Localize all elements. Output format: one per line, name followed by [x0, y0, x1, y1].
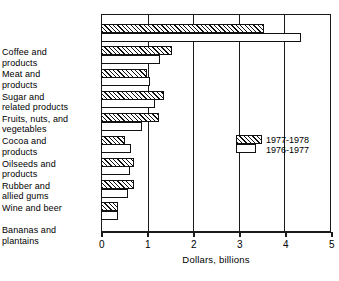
bar — [101, 136, 125, 145]
bar — [101, 122, 142, 131]
category-label: Bananas and plantains — [2, 225, 95, 246]
x-axis-tick — [285, 232, 287, 237]
x-axis-tick — [239, 232, 241, 237]
category-label: Oilseeds and products — [2, 159, 95, 180]
category-label: Wine and beer — [2, 203, 95, 214]
bar — [101, 55, 160, 64]
bar — [101, 77, 150, 86]
bar — [101, 202, 118, 211]
x-axis-tick-label: 0 — [99, 239, 105, 250]
x-axis-tick-label: 5 — [329, 239, 335, 250]
x-axis-tick-label: 1 — [145, 239, 151, 250]
category-label: Meat and products — [2, 69, 95, 90]
category-label: Coffee and products — [2, 47, 95, 68]
bar — [101, 189, 128, 198]
legend-label-1977-1978: 1977-1978 — [266, 135, 309, 145]
bar — [101, 113, 159, 122]
bar — [101, 99, 155, 108]
bar — [101, 180, 134, 189]
x-axis-tick-label: 3 — [237, 239, 243, 250]
legend-swatch-1977-1978 — [236, 135, 262, 144]
x-axis-tick-label: 4 — [283, 239, 289, 250]
bar — [101, 166, 130, 175]
chart-legend: 1977-1978 1976-1977 — [236, 135, 336, 161]
bar — [101, 46, 172, 55]
bar-chart: Coffee and productsMeat and productsSuga… — [0, 0, 339, 281]
bar — [101, 144, 131, 153]
bar — [101, 91, 164, 100]
legend-swatch-1976-1977 — [236, 144, 256, 153]
category-label: Fruits, nuts, and vegetables — [2, 114, 95, 135]
category-label: Sugar and related products — [2, 92, 95, 113]
x-axis-tick — [147, 232, 149, 237]
x-axis-tick — [331, 232, 333, 237]
category-label: Rubber and allied gums — [2, 181, 95, 202]
bars-layer — [101, 14, 331, 232]
legend-label-1976-1977: 1976-1977 — [266, 145, 309, 155]
category-label-list: Coffee and productsMeat and productsSuga… — [0, 0, 99, 281]
x-axis-tick — [193, 232, 195, 237]
x-axis-title: Dollars, billions — [101, 254, 331, 265]
bar — [101, 24, 264, 33]
x-axis-line — [101, 231, 331, 233]
bar — [101, 211, 118, 220]
x-axis-tick — [101, 232, 103, 237]
bar — [101, 69, 147, 78]
bar — [101, 158, 134, 167]
bar — [101, 33, 301, 42]
category-label: Cocoa and products — [2, 136, 95, 157]
x-axis-tick-label: 2 — [191, 239, 197, 250]
